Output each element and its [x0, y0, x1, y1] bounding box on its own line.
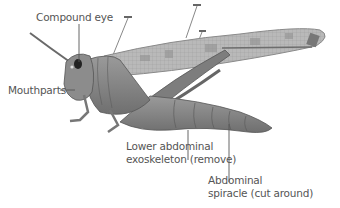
label-mouthparts: Mouthparts [8, 84, 66, 97]
label-lower-abdominal-exoskeleton: Lower abdominal exoskeleton (remove) [126, 140, 236, 166]
grasshopper-diagram: Compound eye Mouthparts Lower abdominal … [0, 0, 340, 208]
label-compound-eye: Compound eye [36, 11, 113, 24]
antenna [30, 33, 70, 62]
compound-eye [74, 59, 82, 69]
label-abdominal-spiracle: Abdominal spiracle (cut around) [208, 174, 313, 200]
